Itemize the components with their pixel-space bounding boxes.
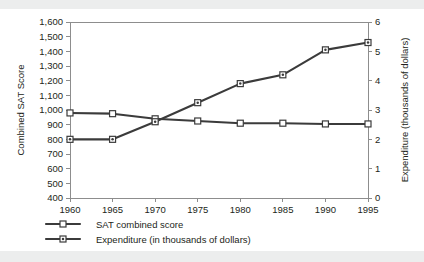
x-tick-label: 1995 xyxy=(357,204,378,215)
data-point-s0-6 xyxy=(322,121,328,127)
left-tick-label: 1,600 xyxy=(39,16,63,27)
data-point-s0-4 xyxy=(237,120,243,126)
left-tick-label: 1,400 xyxy=(39,46,63,57)
left-tick-label: 600 xyxy=(47,163,63,174)
data-point-s0-7 xyxy=(365,121,371,127)
bottom-band xyxy=(0,251,424,262)
chart-figure: 4005006007008009001,0001,1001,2001,3001,… xyxy=(0,0,424,262)
left-tick-label: 1,100 xyxy=(39,90,63,101)
left-tick-label: 1,000 xyxy=(39,104,63,115)
marker-center-dot xyxy=(282,74,285,77)
marker-center-dot xyxy=(196,101,199,104)
data-point-s0-0 xyxy=(67,110,73,116)
x-tick-label: 1960 xyxy=(59,204,80,215)
top-band xyxy=(0,0,424,9)
x-tick-label: 1990 xyxy=(315,204,336,215)
x-tick-label: 1980 xyxy=(230,204,251,215)
right-axis-title: Expenditure (thousands of dollars) xyxy=(399,38,410,183)
marker-center-dot xyxy=(324,49,327,52)
data-point-s0-5 xyxy=(280,120,286,126)
left-axis-title: Combined SAT Score xyxy=(15,65,26,156)
legend-label-0: SAT combined score xyxy=(96,219,183,230)
x-tick-label: 1985 xyxy=(272,204,293,215)
chart-legend: SAT combined scoreExpenditure (in thousa… xyxy=(46,219,251,245)
data-point-s0-1 xyxy=(110,111,116,117)
data-point-s0-3 xyxy=(195,118,201,124)
legend-marker-0 xyxy=(60,221,66,227)
left-tick-label: 500 xyxy=(47,178,63,189)
x-tick-label: 1965 xyxy=(102,204,123,215)
marker-center-dot xyxy=(62,238,65,241)
marker-center-dot xyxy=(239,82,242,85)
right-tick-label: 5 xyxy=(375,46,380,57)
right-tick-label: 1 xyxy=(375,163,380,174)
x-axis-ticks: 19601965197019751980198519901995 xyxy=(59,198,378,215)
right-tick-label: 6 xyxy=(375,16,380,27)
left-tick-label: 900 xyxy=(47,119,63,130)
marker-center-dot xyxy=(69,138,72,141)
marker-center-dot xyxy=(367,41,370,44)
left-tick-label: 400 xyxy=(47,192,63,203)
left-tick-label: 700 xyxy=(47,148,63,159)
marker-center-dot xyxy=(154,120,157,123)
right-tick-label: 0 xyxy=(375,192,380,203)
left-tick-label: 1,200 xyxy=(39,75,63,86)
right-tick-label: 2 xyxy=(375,134,380,145)
left-axis-ticks: 4005006007008009001,0001,1001,2001,3001,… xyxy=(39,16,70,203)
legend-label-1: Expenditure (in thousands of dollars) xyxy=(96,234,251,245)
x-tick-label: 1975 xyxy=(187,204,208,215)
left-tick-label: 800 xyxy=(47,134,63,145)
left-tick-label: 1,500 xyxy=(39,31,63,42)
dual-axis-line-chart: 4005006007008009001,0001,1001,2001,3001,… xyxy=(0,0,424,262)
x-tick-label: 1970 xyxy=(145,204,166,215)
right-tick-label: 3 xyxy=(375,104,380,115)
right-tick-label: 4 xyxy=(375,75,380,86)
marker-center-dot xyxy=(111,138,114,141)
left-tick-label: 1,300 xyxy=(39,60,63,71)
